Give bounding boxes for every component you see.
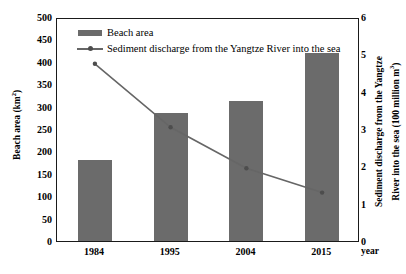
y-axis-right-title-line2: River into the sea (100 million m: [390, 69, 400, 201]
y-axis-left-ticks: 500450400350300250200150100500: [16, 18, 52, 242]
x-axis-tick-2015: 2015: [293, 246, 349, 257]
x-axis-tick-2004: 2004: [217, 246, 273, 257]
y-axis-left-tick: 0: [18, 237, 52, 247]
y-axis-left-tick: 100: [18, 192, 52, 202]
y-axis-left-tick: 50: [18, 215, 52, 225]
y-axis-left-tick: 150: [18, 170, 52, 180]
x-axis-tick-1995: 1995: [142, 246, 198, 257]
y-axis-right-title-tail: ): [390, 62, 400, 65]
y-axis-left-tick: 350: [18, 80, 52, 90]
y-axis-right-title: Sediment discharge from the YangtzeRiver…: [374, 46, 401, 218]
line-marker-1984: [93, 62, 97, 66]
y-axis-left-tick: 500: [18, 13, 52, 23]
y-axis-left-tick: 450: [18, 35, 52, 45]
y-axis-left-tick: 300: [18, 103, 52, 113]
sediment-discharge-line: [95, 64, 322, 193]
plot-area: Beach area Sediment discharge from the Y…: [56, 18, 359, 242]
y-axis-right-tick: 6: [361, 13, 385, 23]
y-axis-right-title-line1: Sediment discharge from the Yangtze: [374, 56, 384, 207]
x-axis-labels: 1984199520042015: [56, 246, 359, 262]
y-axis-left-tick: 400: [18, 58, 52, 68]
line-series-layer: [57, 19, 359, 242]
line-marker-1995: [168, 125, 172, 129]
chart-figure: Beach area (km2) 50045040035030025020015…: [0, 0, 406, 274]
y-axis-right-title-superscript: 3: [388, 66, 395, 69]
y-axis-left-tick: 200: [18, 147, 52, 157]
x-axis-unit-label: year: [361, 246, 379, 256]
x-axis-tick-1984: 1984: [66, 246, 122, 257]
line-marker-2004: [244, 166, 248, 170]
line-marker-2015: [320, 190, 324, 194]
y-axis-left-tick: 250: [18, 125, 52, 135]
